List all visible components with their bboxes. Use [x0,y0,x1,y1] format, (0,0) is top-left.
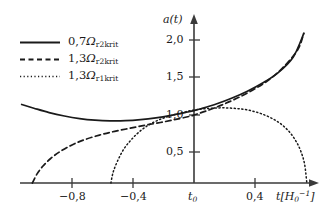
chart-canvas [0,0,327,217]
legend-num-0: 0,7 [68,34,86,48]
y-tick-label-1-5: 1,5 [166,71,184,82]
legend-sub-0: r2krit [96,40,119,49]
legend-omega-1: Ω [86,51,96,65]
y-axis-title: a(t) [163,14,183,25]
legend-omega-2: Ω [86,68,96,82]
y-axis-arrow [190,14,198,24]
legend-sample-lines [20,43,60,77]
legend-num-1: 1,3 [68,51,86,65]
legend-label-2: 1,3Ωr1krit [68,70,118,83]
x-axis-title: t[H0−1] [276,190,314,204]
x-tick-label-t0: t0 [188,191,197,204]
x-tick-label-0-4: 0,4 [246,191,264,202]
x-axis-arrow [309,179,319,187]
y-tick-label-0-5: 0,5 [166,146,184,157]
legend-omega-0: Ω [86,34,96,48]
y-tick-label-2-0: 2,0 [166,34,184,45]
legend-sub-2: r1krit [96,74,119,83]
y-tick-label-1-0: 1,0 [166,109,184,120]
legend-sub-1: r2krit [96,57,119,66]
legend-label-0: 0,7Ωr2krit [68,36,118,49]
legend-num-2: 1,3 [68,68,86,82]
x-tick-label--0-4: −0,4 [120,191,147,202]
legend-label-1: 1,3Ωr2krit [68,53,118,66]
curve-0-7-omega-r2krit [22,33,304,120]
x-tick-label--0-8: −0,8 [59,191,86,202]
